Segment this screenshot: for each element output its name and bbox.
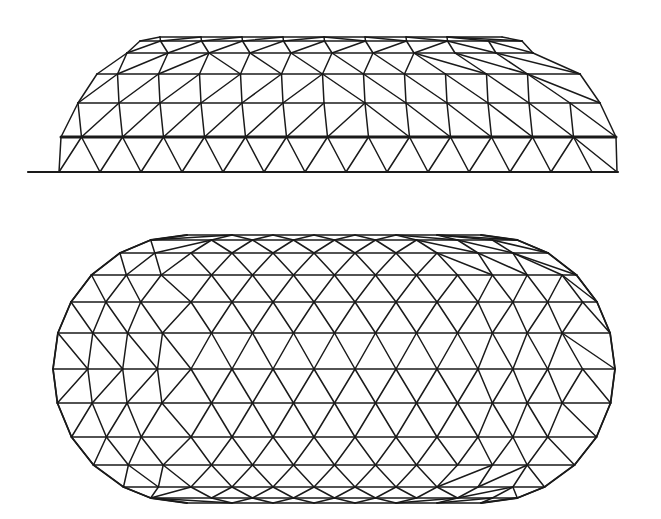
- strut-line: [478, 302, 492, 333]
- strut-line: [548, 369, 562, 403]
- strut-line: [212, 275, 233, 302]
- strut-line: [253, 302, 274, 333]
- strut-line: [253, 369, 274, 403]
- strut-line: [513, 275, 527, 302]
- strut-line: [355, 253, 376, 275]
- strut-line: [513, 437, 527, 465]
- strut-line: [437, 333, 458, 369]
- strut-line: [88, 333, 93, 369]
- strut-line: [376, 369, 397, 403]
- strut-line: [396, 437, 417, 465]
- strut-line: [94, 437, 107, 465]
- strut-line: [314, 437, 335, 465]
- strut-line: [212, 253, 233, 275]
- strut-line: [335, 240, 356, 253]
- strut-line: [106, 437, 128, 465]
- strut-line: [314, 253, 335, 275]
- strut-line: [191, 369, 212, 403]
- strut-line: [191, 275, 212, 302]
- strut-line: [191, 465, 212, 487]
- strut-line: [92, 275, 106, 302]
- strut-line: [155, 240, 212, 253]
- strut-line: [417, 403, 438, 437]
- strut-line: [314, 333, 335, 369]
- strut-line: [458, 403, 479, 437]
- strut-line: [562, 302, 583, 333]
- strut-line: [513, 369, 527, 403]
- strut-line: [126, 253, 154, 275]
- strut-line: [162, 403, 191, 437]
- strut-line: [212, 333, 233, 369]
- strut-line: [294, 403, 315, 437]
- strut-line: [314, 302, 335, 333]
- strut-line: [212, 403, 233, 437]
- strut-line: [294, 437, 315, 465]
- strut-line: [191, 333, 212, 369]
- strut-line: [191, 403, 212, 437]
- strut-line: [273, 369, 294, 403]
- strut-line: [355, 333, 376, 369]
- strut-line: [478, 403, 492, 437]
- top-plan-view: [0, 0, 661, 519]
- strut-line: [355, 240, 376, 253]
- strut-line: [158, 369, 162, 403]
- strut-line: [513, 403, 527, 437]
- strut-line: [492, 369, 513, 403]
- strut-line: [161, 253, 191, 275]
- strut-line: [396, 465, 417, 487]
- strut-line: [562, 369, 583, 403]
- strut-line: [212, 369, 233, 403]
- strut-line: [376, 275, 397, 302]
- outline-edge: [124, 487, 151, 498]
- strut-line: [128, 333, 158, 369]
- outline-edge: [53, 333, 58, 369]
- strut-line: [513, 333, 527, 369]
- strut-line: [294, 369, 315, 403]
- strut-line: [458, 437, 479, 465]
- strut-line: [376, 465, 397, 487]
- strut-line: [93, 302, 106, 333]
- strut-line: [437, 302, 458, 333]
- strut-line: [161, 275, 191, 302]
- strut-line: [396, 403, 417, 437]
- strut-line: [335, 275, 356, 302]
- strut-line: [232, 240, 253, 253]
- strut-line: [335, 253, 356, 275]
- strut-line: [212, 487, 233, 498]
- strut-line: [376, 302, 397, 333]
- strut-line: [417, 275, 438, 302]
- strut-line: [273, 465, 294, 487]
- strut-line: [106, 302, 128, 333]
- strut-line: [314, 465, 335, 487]
- strut-line: [127, 403, 141, 437]
- strut-line: [232, 302, 253, 333]
- strut-line: [314, 403, 335, 437]
- outline-edge: [71, 275, 92, 302]
- strut-line: [548, 333, 562, 369]
- strut-line: [273, 333, 294, 369]
- strut-line: [437, 437, 458, 465]
- strut-line: [232, 369, 253, 403]
- strut-line: [458, 302, 479, 333]
- strut-line: [458, 275, 479, 302]
- strut-line: [273, 403, 294, 437]
- strut-line: [492, 275, 513, 302]
- outline-edge: [610, 333, 615, 369]
- strut-line: [294, 465, 315, 487]
- strut-line: [548, 437, 575, 465]
- strut-line: [335, 333, 356, 369]
- strut-line: [212, 240, 233, 253]
- strut-line: [437, 487, 458, 498]
- strut-line: [527, 275, 548, 302]
- outline-edge: [548, 253, 576, 275]
- strut-line: [232, 275, 253, 302]
- strut-line: [314, 487, 335, 498]
- strut-line: [458, 369, 479, 403]
- outline-edge: [120, 240, 151, 253]
- strut-line: [314, 240, 335, 253]
- strut-line: [232, 253, 253, 275]
- strut-line: [124, 465, 129, 487]
- strut-line: [128, 302, 141, 333]
- strut-line: [335, 369, 356, 403]
- strut-line: [273, 275, 294, 302]
